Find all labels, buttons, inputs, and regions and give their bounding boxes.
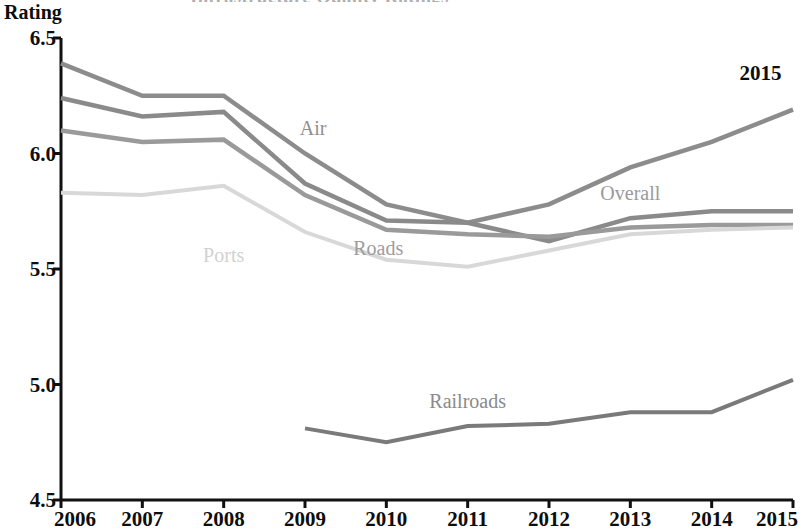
plot-area [0, 0, 805, 532]
x-axis-tick-label: 2015 [756, 509, 798, 530]
annotation-ports: Ports [203, 245, 244, 265]
y-axis-tick-label: 6.0 [4, 143, 56, 164]
annotation-2015: 2015 [739, 62, 781, 83]
chart-container: Infrastructure Quality Ratings Rating 6.… [0, 0, 805, 532]
x-axis-tick-label: 2006 [54, 509, 96, 530]
y-axis-tick-label: 5.0 [4, 374, 56, 395]
x-axis-tick-label: 2012 [528, 509, 570, 530]
data-series-group [61, 63, 793, 442]
series-line-roads [61, 98, 793, 241]
x-axis-tick-label: 2009 [284, 509, 326, 530]
y-axis-tick-labels: 6.56.05.55.04.5 [0, 0, 56, 532]
x-axis-tick-label: 2013 [609, 509, 651, 530]
annotation-air: Air [300, 118, 327, 138]
x-axis-tick-label: 2011 [447, 509, 488, 530]
x-axis-tick-label: 2007 [121, 509, 163, 530]
y-axis-tick-label: 5.5 [4, 259, 56, 280]
y-axis-tick-label: 6.5 [4, 28, 56, 49]
x-axis-tick-label: 2014 [691, 509, 733, 530]
y-axis-tick-label: 4.5 [4, 490, 56, 511]
annotation-roads: Roads [353, 238, 403, 258]
axes [53, 38, 793, 508]
annotation-overall: Overall [600, 183, 660, 203]
annotation-railroads: Railroads [429, 391, 506, 411]
series-line-railroads [305, 380, 793, 442]
x-axis-tick-label: 2010 [365, 509, 407, 530]
x-axis-tick-label: 2008 [203, 509, 245, 530]
